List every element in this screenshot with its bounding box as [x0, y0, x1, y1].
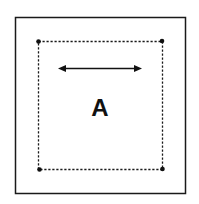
- corner-dot-top-left: [36, 39, 41, 44]
- corner-dot-top-right: [160, 39, 165, 44]
- corner-dot-bottom-left: [37, 167, 42, 172]
- corner-dot-bottom-right: [160, 167, 165, 172]
- region-label: A: [91, 94, 108, 121]
- double-arrow-icon: [58, 65, 142, 72]
- diagram: A: [0, 0, 199, 204]
